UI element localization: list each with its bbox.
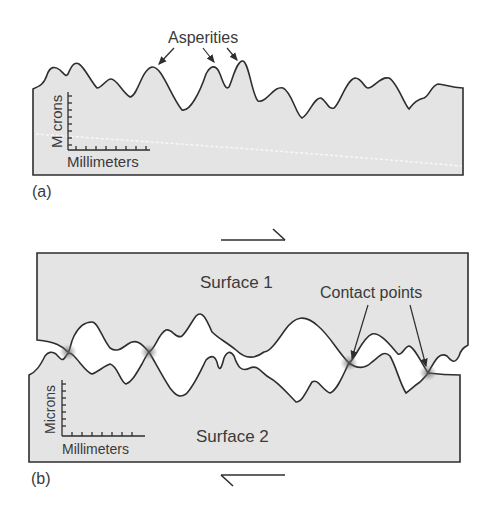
x-axis-label-b: Millimeters <box>62 441 129 457</box>
shear-arrow-bottom <box>221 475 285 486</box>
y-axis-label-b: Microns <box>42 385 58 434</box>
panel-tag-b: (b) <box>31 470 51 487</box>
diagram-canvas: M crons Millimeters Asperities (a) <box>0 0 493 517</box>
shear-arrow-top <box>221 229 285 240</box>
asperities-label: Asperities <box>168 29 238 46</box>
panel-a: M crons Millimeters Asperities (a) <box>32 29 463 200</box>
surface-1-label: Surface 1 <box>200 273 273 292</box>
surface-1-block <box>37 253 468 373</box>
panel-tag-a: (a) <box>32 183 52 200</box>
panel-b: Surface 1 Surface 2 Contact points Micro… <box>29 229 468 487</box>
contact-points-label: Contact points <box>320 284 422 301</box>
y-axis-label-a: M crons <box>48 95 65 148</box>
x-axis-label-a: Millimeters <box>67 153 139 170</box>
asperity-arrows <box>159 48 237 64</box>
surface-2-label: Surface 2 <box>196 427 269 446</box>
